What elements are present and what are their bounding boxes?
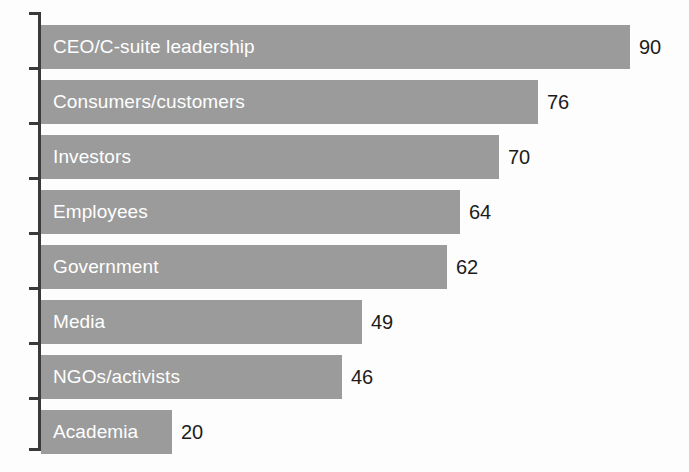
axis-tick-6 [29,342,39,345]
bar-category-label: NGOs/activists [53,355,180,399]
bar-chart: CEO/C-suite leadership 90 Consumers/cust… [0,0,689,472]
bar-row: Academia 20 [41,410,252,454]
axis-tick-8 [29,448,39,451]
bar-row: Media 49 [41,300,442,344]
bar-value-label: 62 [456,245,478,289]
bar-row: Investors 70 [41,135,579,179]
bar-value-label: 90 [639,25,661,69]
bar-value-label: 49 [371,300,393,344]
bar-row: NGOs/activists 46 [41,355,422,399]
bar-category-label: Employees [53,190,148,234]
bar-value-label: 46 [351,355,373,399]
bar-row: Government 62 [41,245,527,289]
bar-category-label: Consumers/customers [53,80,245,124]
axis-tick-0 [29,12,39,15]
axis-tick-2 [29,122,39,125]
bar-row: CEO/C-suite leadership 90 [41,25,689,69]
plot-area: CEO/C-suite leadership 90 Consumers/cust… [41,12,689,452]
axis-tick-1 [29,67,39,70]
axis-tick-7 [29,397,39,400]
axis-tick-3 [29,177,39,180]
bar-row: Consumers/customers 76 [41,80,618,124]
bar-category-label: CEO/C-suite leadership [53,25,255,69]
bar-value-label: 20 [181,410,203,454]
bar-category-label: Academia [53,410,138,454]
axis-tick-5 [29,287,39,290]
bar-row: Employees 64 [41,190,540,234]
bar-value-label: 64 [469,190,491,234]
bar-value-label: 70 [508,135,530,179]
axis-tick-4 [29,232,39,235]
bar-category-label: Government [53,245,159,289]
bar-category-label: Media [53,300,105,344]
bar-category-label: Investors [53,135,131,179]
bar-value-label: 76 [547,80,569,124]
